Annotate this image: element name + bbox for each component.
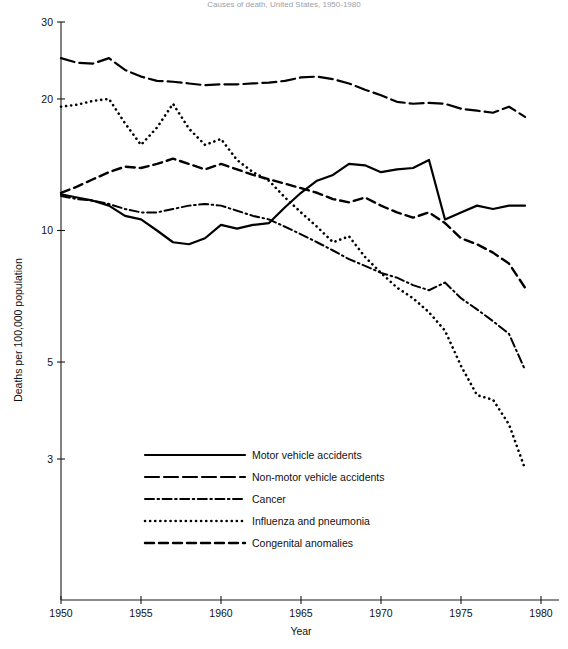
series-line [61,58,525,117]
chart-title-group: Causes of death, United States, 1950-198… [207,0,361,9]
y-axis-tick-label: 3 [47,453,53,465]
series-line [61,196,525,370]
x-axis: 1950195519601965197019751980 [49,596,559,619]
y-axis-tick-label: 30 [41,16,53,28]
series-lines [61,58,525,469]
series-line [61,99,525,469]
legend-label: Non-motor vehicle accidents [252,471,384,483]
x-axis-title: Year [290,625,312,637]
x-axis-tick-label: 1975 [449,607,473,619]
legend-label: Motor vehicle accidents [252,449,362,461]
y-axis-tick-label: 20 [41,93,53,105]
series-line [61,159,525,288]
x-axis-tick-label: 1980 [529,607,553,619]
chart-title: Causes of death, United States, 1950-198… [207,0,361,9]
chart-legend: Motor vehicle accidentsNon-motor vehicle… [145,449,384,549]
x-axis-tick-label: 1965 [289,607,313,619]
x-axis-tick-label: 1960 [209,607,233,619]
legend-label: Cancer [252,493,286,505]
y-axis: 30201053 [41,16,65,600]
y-axis-tick-label: 10 [41,224,53,236]
legend-label: Congenital anomalies [252,537,353,549]
legend-label: Influenza and pneumonia [252,515,370,527]
line-chart: Causes of death, United States, 1950-198… [0,0,568,649]
x-axis-tick-label: 1950 [49,607,73,619]
y-axis-tick-label: 5 [47,356,53,368]
y-axis-title: Deaths per 100,000 population [12,258,24,402]
x-axis-tick-label: 1970 [369,607,393,619]
chart-container: Causes of death, United States, 1950-198… [0,0,568,649]
x-axis-tick-label: 1955 [129,607,153,619]
